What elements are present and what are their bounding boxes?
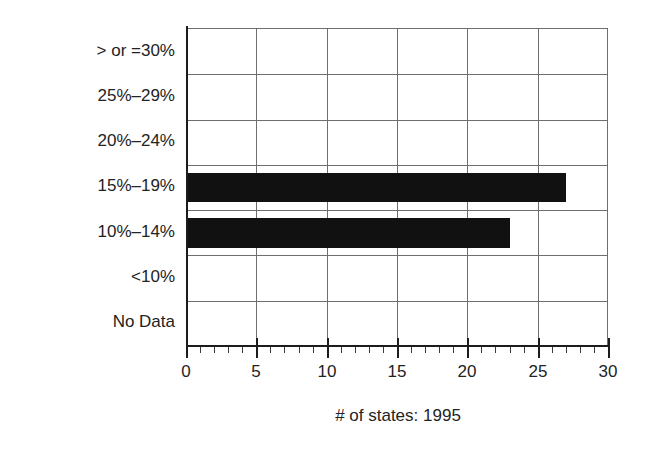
x-axis-minor-tick: [495, 347, 496, 353]
x-axis-major-tick: [538, 338, 540, 358]
x-axis-tick-label: 5: [251, 362, 260, 382]
x-axis-tick-label: 10: [318, 362, 337, 382]
x-axis-minor-tick: [580, 347, 581, 353]
x-axis-minor-tick: [481, 347, 482, 353]
x-axis-minor-tick: [200, 347, 201, 353]
x-axis-major-tick: [256, 338, 258, 358]
x-axis-minor-tick: [341, 347, 342, 353]
x-axis-major-tick: [608, 338, 610, 358]
x-axis-minor-tick: [425, 347, 426, 353]
y-axis-tick-label: <10%: [52, 254, 182, 299]
x-axis-major-tick: [327, 338, 329, 358]
x-axis-major-tick: [186, 338, 188, 358]
x-axis-tick-label: 30: [599, 362, 618, 382]
x-axis-tick-label: 25: [529, 362, 548, 382]
x-axis-minor-tick: [383, 347, 384, 353]
x-axis-minor-tick: [524, 347, 525, 353]
y-axis-tick-label: > or =30%: [52, 28, 182, 73]
x-axis-minor-tick: [453, 347, 454, 353]
bar: [186, 218, 510, 248]
y-axis-tick-label: 25%–29%: [52, 73, 182, 118]
x-axis-tick-label: 20: [458, 362, 477, 382]
x-axis-tick-labels: 051015202530: [186, 362, 610, 386]
plot-area: [186, 28, 608, 345]
x-axis-minor-tick: [369, 347, 370, 353]
bar-chart-figure: % of population obese > or =30%25%–29%20…: [0, 0, 665, 452]
y-axis-tick-label: 20%–24%: [52, 119, 182, 164]
x-axis-ticks: [186, 347, 610, 359]
y-axis-line: [186, 26, 188, 347]
x-axis-minor-tick: [566, 347, 567, 353]
y-axis-tick-label: 10%–14%: [52, 209, 182, 254]
x-axis-minor-tick: [228, 347, 229, 353]
x-axis-minor-tick: [411, 347, 412, 353]
x-axis-major-tick: [397, 338, 399, 358]
x-axis-minor-tick: [313, 347, 314, 353]
x-axis-title: # of states: 1995: [186, 406, 610, 426]
x-axis-minor-tick: [242, 347, 243, 353]
x-axis-minor-tick: [510, 347, 511, 353]
x-axis-major-tick: [467, 338, 469, 358]
y-axis-tick-labels: > or =30%25%–29%20%–24%15%–19%10%–14%<10…: [52, 28, 182, 345]
x-axis-minor-tick: [284, 347, 285, 353]
x-axis-minor-tick: [270, 347, 271, 353]
x-axis-minor-tick: [299, 347, 300, 353]
bar: [186, 173, 566, 203]
x-axis-minor-tick: [214, 347, 215, 353]
y-axis-tick-label: 15%–19%: [52, 164, 182, 209]
x-axis-tick-label: 0: [181, 362, 190, 382]
x-axis-minor-tick: [594, 347, 595, 353]
y-axis-tick-label: No Data: [52, 300, 182, 345]
x-axis-minor-tick: [552, 347, 553, 353]
x-axis-minor-tick: [439, 347, 440, 353]
x-axis-minor-tick: [355, 347, 356, 353]
x-axis-tick-label: 15: [388, 362, 407, 382]
